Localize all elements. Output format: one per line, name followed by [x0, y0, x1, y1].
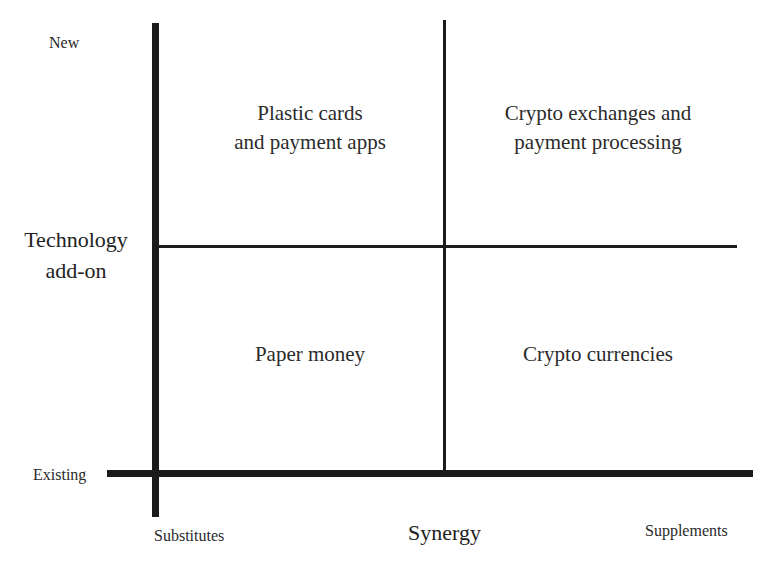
y-axis-title-line2: add-on [16, 255, 136, 286]
quadrant-top-right: Crypto exchanges and payment processing [470, 99, 726, 157]
y-axis-top-label: New [49, 35, 79, 51]
y-axis-title: Technology add-on [16, 224, 136, 286]
quadrant-top-right-line1: Crypto exchanges and [470, 99, 726, 128]
y-axis-bottom-label: Existing [33, 467, 86, 483]
quadrant-top-left: Plastic cards and payment apps [205, 99, 415, 157]
quadrant-bottom-left: Paper money [205, 340, 415, 369]
quadrant-bottom-right: Crypto currencies [470, 340, 726, 369]
x-axis-line [107, 470, 753, 477]
y-axis-title-line1: Technology [16, 224, 136, 255]
x-axis-title: Synergy [408, 522, 481, 544]
x-axis-right-label: Supplements [645, 523, 728, 539]
quadrant-top-right-line2: payment processing [470, 128, 726, 157]
quadrant-bottom-right-line1: Crypto currencies [470, 340, 726, 369]
x-axis-left-label: Substitutes [154, 528, 224, 544]
quadrant-top-left-line2: and payment apps [205, 128, 415, 157]
y-axis-line [152, 23, 159, 517]
quadrant-top-left-line1: Plastic cards [205, 99, 415, 128]
horizontal-divider-line [155, 245, 737, 248]
quadrant-bottom-left-line1: Paper money [205, 340, 415, 369]
